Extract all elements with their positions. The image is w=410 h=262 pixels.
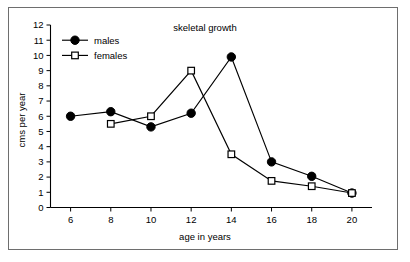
skeletal-growth-line-chart: skeletal growth cms per year age in year… xyxy=(0,0,410,262)
series-females xyxy=(107,67,355,196)
legend-marker-females xyxy=(72,52,79,59)
y-tick-label: 4 xyxy=(38,141,43,152)
x-tick-label: 10 xyxy=(146,214,157,225)
x-tick-label: 18 xyxy=(306,214,317,225)
x-tick-label: 6 xyxy=(68,214,73,225)
x-tick-label: 12 xyxy=(186,214,197,225)
data-point-females xyxy=(268,178,275,185)
legend-item-males[interactable]: males xyxy=(62,35,120,46)
data-point-females xyxy=(148,113,155,120)
data-point-females xyxy=(188,67,195,74)
y-tick-label: 11 xyxy=(34,35,44,46)
x-axis-ticks: 68101214161820 xyxy=(68,208,357,225)
x-tick-label: 14 xyxy=(226,214,237,225)
data-point-males xyxy=(107,107,115,115)
chart-legend: malesfemales xyxy=(62,35,128,61)
data-point-females xyxy=(308,183,315,190)
y-tick-label: 8 xyxy=(38,80,43,91)
data-point-males xyxy=(227,53,235,61)
data-point-males xyxy=(147,123,155,131)
y-axis-title: cms per year xyxy=(16,93,27,148)
x-axis-title: age in years xyxy=(179,231,231,242)
data-point-males xyxy=(187,109,195,117)
chart-title: skeletal growth xyxy=(173,22,236,33)
legend-item-females[interactable]: females xyxy=(62,50,128,61)
y-tick-label: 5 xyxy=(38,126,43,137)
x-tick-label: 16 xyxy=(266,214,277,225)
y-tick-label: 2 xyxy=(38,171,43,182)
x-tick-label: 8 xyxy=(108,214,113,225)
y-tick-label: 3 xyxy=(38,156,43,167)
y-tick-label: 10 xyxy=(33,50,44,61)
legend-label-females: females xyxy=(94,50,128,61)
y-axis-ticks: 0123456789101112 xyxy=(33,19,51,213)
y-tick-label: 1 xyxy=(38,187,43,198)
data-point-females xyxy=(107,121,114,128)
y-tick-label: 7 xyxy=(38,95,43,106)
data-point-females xyxy=(228,151,235,158)
x-tick-label: 20 xyxy=(347,214,358,225)
data-point-males xyxy=(267,158,275,166)
screenshot-root: skeletal growth cms per year age in year… xyxy=(0,0,410,262)
y-tick-label: 12 xyxy=(33,19,44,30)
data-point-males xyxy=(308,172,316,180)
series-layer xyxy=(66,53,356,198)
legend-label-males: males xyxy=(94,35,120,46)
y-tick-label: 9 xyxy=(38,65,43,76)
legend-marker-males xyxy=(71,36,79,44)
data-point-males xyxy=(66,112,74,120)
y-tick-label: 6 xyxy=(38,111,43,122)
data-point-females xyxy=(349,190,356,197)
y-tick-label: 0 xyxy=(38,202,43,213)
